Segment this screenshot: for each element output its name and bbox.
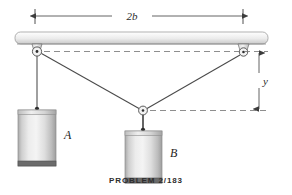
block-b-label: B — [170, 146, 178, 160]
beam-body — [15, 32, 268, 44]
cable-left-to-middle — [42, 54, 140, 109]
left-pulley — [32, 47, 41, 56]
right-pulley — [239, 48, 247, 56]
cable-middle-to-right — [147, 55, 240, 109]
ceiling-beam — [15, 32, 268, 44]
middle-pulley — [139, 106, 148, 115]
block-a: A — [18, 107, 72, 166]
problem-figure: 2b — [0, 0, 292, 195]
cable-system — [37, 54, 240, 131]
block-a-bottom-cap — [18, 161, 56, 166]
reference-lines — [44, 52, 268, 111]
block-b: B — [125, 128, 178, 183]
left-pulley-axle — [36, 50, 39, 53]
figure-caption: PROBLEM 2/183 — [0, 176, 292, 185]
height-dimension-y: y — [259, 53, 268, 109]
middle-pulley-axle — [142, 109, 145, 112]
block-b-top-cap — [125, 131, 162, 136]
span-label-2b: 2b — [127, 10, 139, 22]
block-a-label: A — [63, 128, 72, 142]
height-label-y: y — [262, 75, 268, 87]
figure-canvas: 2b — [0, 0, 292, 195]
span-dimension-2b: 2b — [35, 9, 243, 24]
block-a-top-cap — [18, 110, 56, 115]
block-a-body — [18, 110, 56, 166]
